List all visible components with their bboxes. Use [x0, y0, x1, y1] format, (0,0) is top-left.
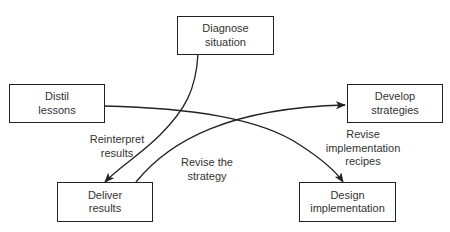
node-distil-lessons: Distil lessons: [9, 84, 105, 123]
node-diagnose-situation: Diagnose situation: [177, 16, 274, 55]
node-deliver-results: Deliver results: [57, 182, 153, 222]
node-develop-strategies: Develop strategies: [347, 84, 443, 123]
label-revise-the-strategy: Revise the strategy: [172, 156, 242, 183]
label-revise-implementation-recipes: Revise implementation recipes: [318, 128, 408, 169]
label-reinterpret-results: Reinterpret results: [82, 133, 152, 160]
node-design-implementation: Design implementation: [299, 182, 396, 222]
